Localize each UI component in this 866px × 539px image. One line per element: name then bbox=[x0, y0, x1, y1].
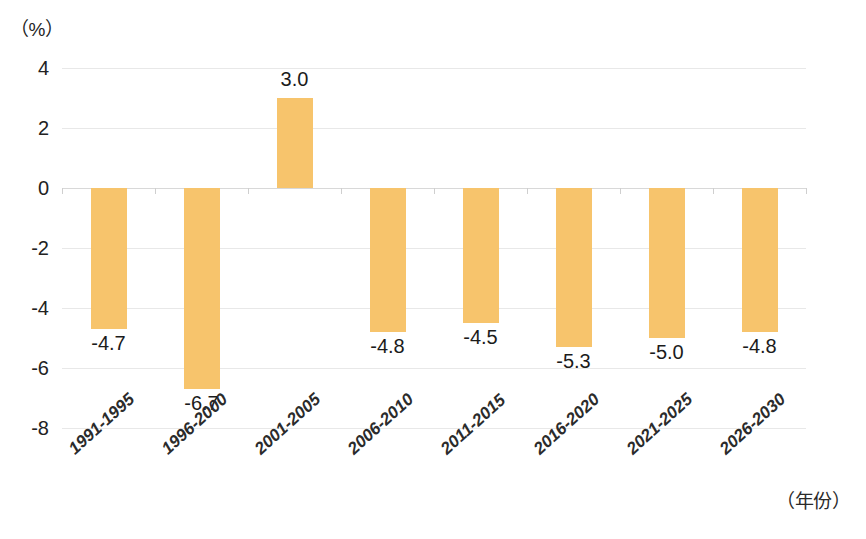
y-axis-tick-label: 4 bbox=[38, 57, 49, 80]
gridline bbox=[62, 308, 806, 309]
bar[interactable] bbox=[91, 188, 127, 329]
y-axis-tick-label: -8 bbox=[31, 417, 49, 440]
bar[interactable] bbox=[742, 188, 778, 332]
x-axis-category-label: 2016-2020 bbox=[530, 390, 604, 459]
x-axis-category-label: 1991-1995 bbox=[65, 390, 139, 459]
y-axis-tick-label: -6 bbox=[31, 357, 49, 380]
bar-value-label: -4.7 bbox=[91, 332, 125, 355]
gridline bbox=[62, 128, 806, 129]
x-axis-tick-mark bbox=[248, 188, 249, 194]
bar[interactable] bbox=[649, 188, 685, 338]
bar-value-label: -4.8 bbox=[742, 335, 776, 358]
chart-screenshot: （%） （年份） 420-2-4-6-8 -4.7-6.73.0-4.8-4.5… bbox=[0, 0, 866, 539]
x-axis-category-label: 2006-2010 bbox=[344, 390, 418, 459]
x-axis-caption-label: （年份） bbox=[776, 486, 850, 513]
x-axis-tick-mark bbox=[620, 188, 621, 194]
plot-area: 420-2-4-6-8 -4.7-6.73.0-4.8-4.5-5.3-5.0-… bbox=[62, 68, 806, 428]
gridline bbox=[62, 68, 806, 69]
y-axis-tick-label: 2 bbox=[38, 117, 49, 140]
y-axis-tick-label: 0 bbox=[38, 177, 49, 200]
bar-value-label: -4.8 bbox=[370, 335, 404, 358]
y-axis-tick-label: -4 bbox=[31, 297, 49, 320]
bar[interactable] bbox=[277, 98, 313, 188]
x-axis-tick-mark bbox=[713, 188, 714, 194]
bar-value-label: -5.0 bbox=[649, 341, 683, 364]
bar-value-label: -4.5 bbox=[463, 326, 497, 349]
x-axis-tick-mark bbox=[434, 188, 435, 194]
bar-value-label: -5.3 bbox=[556, 350, 590, 373]
bar[interactable] bbox=[556, 188, 592, 347]
bar[interactable] bbox=[370, 188, 406, 332]
x-axis-tick-mark bbox=[62, 188, 63, 194]
x-axis-tick-mark bbox=[806, 188, 807, 194]
bar-value-label: 3.0 bbox=[281, 68, 309, 91]
y-axis-unit-label: （%） bbox=[10, 14, 63, 41]
x-axis-tick-mark bbox=[341, 188, 342, 194]
x-axis-tick-mark bbox=[155, 188, 156, 194]
x-axis-category-label: 2026-2030 bbox=[716, 390, 790, 459]
bar[interactable] bbox=[184, 188, 220, 389]
y-axis-tick-label: -2 bbox=[31, 237, 49, 260]
x-axis-category-label: 2011-2015 bbox=[437, 390, 510, 458]
x-axis-category-label: 2021-2025 bbox=[623, 390, 697, 459]
gridline bbox=[62, 368, 806, 369]
bar[interactable] bbox=[463, 188, 499, 323]
gridline bbox=[62, 248, 806, 249]
x-axis-category-label: 2001-2005 bbox=[251, 390, 325, 459]
x-axis-tick-mark bbox=[527, 188, 528, 194]
